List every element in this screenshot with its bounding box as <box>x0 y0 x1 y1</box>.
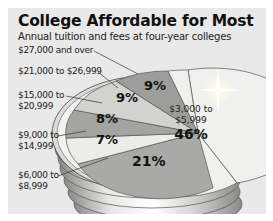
pct-15000-20999: 8% <box>96 111 118 126</box>
label-6000-8999-l2: $8,999 <box>18 181 48 192</box>
label-15000-20999-l1: $15,000 to <box>18 90 64 101</box>
pct-21000-26999: 9% <box>116 90 138 105</box>
pct-6000-8999: 21% <box>132 153 166 169</box>
label-3000-5999-l2: $5,999 <box>175 115 207 125</box>
chart-panel: College Affordable for Most Annual tuiti… <box>8 8 266 214</box>
label-9000-14999-l2: $14,999 <box>18 141 53 152</box>
label-3000-5999-l1: $3,000 to <box>169 104 213 114</box>
pct-3000-5999: 46% <box>174 126 208 142</box>
label-6000-8999-l1: $6,000 to <box>18 170 59 181</box>
label-9000-14999-l1: $9,000 to <box>18 130 59 141</box>
label-21000-26999: $21,000 to $26,999 <box>18 66 102 77</box>
label-27000-over: $27,000 and over <box>18 45 93 56</box>
pct-27000-over: 9% <box>144 78 166 93</box>
pct-9000-14999: 7% <box>96 132 118 147</box>
label-15000-20999-l2: $20,999 <box>18 101 53 112</box>
